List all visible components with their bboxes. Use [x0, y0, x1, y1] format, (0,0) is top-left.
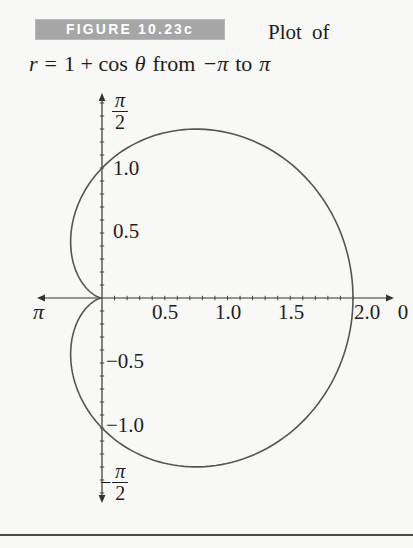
fraction-denominator: 2 [115, 112, 125, 132]
y-tick-label-neg-1.0: −1.0 [106, 414, 144, 436]
x-tick-label-0.5: 0.5 [152, 301, 178, 323]
x-tick-label-1.5: 1.5 [278, 301, 304, 323]
x-tick-label-1.0: 1.0 [215, 301, 241, 323]
minus-sign: − [100, 471, 111, 494]
bottom-divider [0, 534, 413, 536]
x-axis-right-arrow [386, 295, 394, 302]
fraction: π 2 [112, 462, 128, 503]
fraction-numerator: π [112, 462, 128, 483]
x-tick-label-2.0: 2.0 [354, 301, 380, 323]
y-tick-label-1.0: 1.0 [113, 157, 139, 179]
y-tick-label-neg-0.5: −0.5 [106, 350, 144, 372]
figure-panel: FIGURE 10.23c Plot of r = 1 + cos θ from… [0, 0, 413, 548]
y-axis-top-label-pi-over-2: π 2 [112, 91, 128, 132]
cardioid-plot [0, 0, 413, 548]
x-axis-right-label-0: 0 [398, 301, 409, 323]
x-axis-left-label-pi: π [33, 299, 44, 325]
y-tick-label-0.5: 0.5 [113, 220, 139, 242]
fraction-denominator: 2 [115, 483, 125, 503]
fraction-numerator: π [112, 91, 128, 112]
y-axis-top-arrow [99, 93, 106, 101]
y-axis-bottom-label-neg-pi-over-2: − π 2 [100, 462, 128, 503]
